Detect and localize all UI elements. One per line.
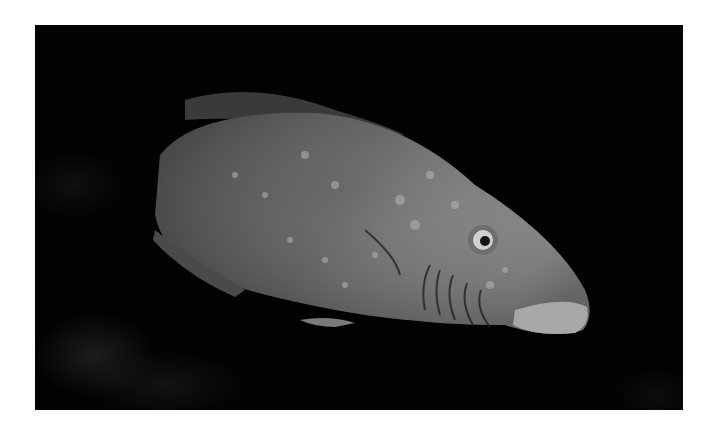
fish-photo: Side view of a large fish with pale spot… [35,25,683,410]
fish-illustration [35,25,683,410]
anal-fin [300,318,355,327]
